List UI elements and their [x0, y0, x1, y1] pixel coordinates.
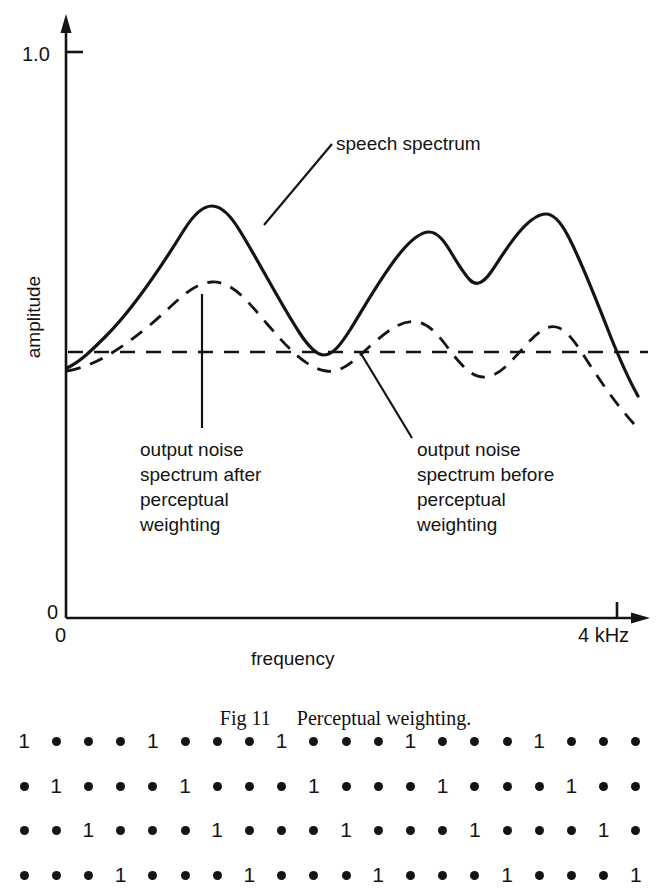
bit-grid-dot [588, 860, 620, 890]
bit-grid-one-glyph: 1 [340, 818, 352, 841]
bit-grid-one-glyph: 1 [372, 863, 384, 886]
bit-grid-dot [169, 815, 201, 845]
bit-grid-dot [40, 726, 72, 756]
y-axis-zero-tick-label: 0 [47, 600, 58, 625]
bit-grid-dot-glyph [245, 737, 254, 746]
bit-grid-dot [201, 771, 233, 801]
bit-grid-one: 1 [427, 771, 459, 801]
bit-grid-dot [394, 815, 426, 845]
bit-grid-dot [362, 726, 394, 756]
bit-grid-dot-glyph [52, 826, 61, 835]
bit-grid-dot-glyph [438, 737, 447, 746]
bit-grid-dot-glyph [342, 737, 351, 746]
bit-grid-dot [620, 815, 652, 845]
bit-grid-one-glyph: 1 [501, 863, 513, 886]
bit-grid-one: 1 [523, 726, 555, 756]
bit-grid: 11111111111111111111 [0, 722, 671, 894]
bit-grid-dot [620, 726, 652, 756]
bit-grid-dot [266, 860, 298, 890]
bit-grid-dot [169, 726, 201, 756]
bit-grid-dot-glyph [277, 782, 286, 791]
bit-grid-dot [523, 815, 555, 845]
bit-grid-dot-glyph [631, 782, 640, 791]
chart-plot [0, 0, 671, 660]
bit-grid-dot-glyph [631, 826, 640, 835]
bit-grid-one-glyph: 1 [598, 818, 610, 841]
bit-grid-one: 1 [394, 726, 426, 756]
bit-grid-dot [298, 726, 330, 756]
x-axis-max-tick-label: 4 kHz [578, 623, 629, 648]
bit-grid-one-glyph: 1 [566, 774, 578, 797]
bit-grid-dot [459, 771, 491, 801]
bit-grid-dot [40, 815, 72, 845]
bit-grid-dot [266, 771, 298, 801]
bit-grid-dot-glyph [84, 782, 93, 791]
bit-grid-dot-glyph [374, 826, 383, 835]
bit-grid-dot [330, 726, 362, 756]
bit-grid-dot-glyph [406, 826, 415, 835]
bit-grid-dot-glyph [567, 737, 576, 746]
bit-grid-dot [105, 815, 137, 845]
bit-grid-dot-glyph [277, 826, 286, 835]
bit-grid-dot [330, 771, 362, 801]
bit-grid-dot [330, 860, 362, 890]
bit-grid-one: 1 [201, 815, 233, 845]
bit-grid-dot-glyph [631, 737, 640, 746]
bit-grid-dot-glyph [213, 782, 222, 791]
bit-grid-dot [394, 860, 426, 890]
bit-grid-dot [137, 771, 169, 801]
bit-grid-dot-glyph [181, 826, 190, 835]
chart-area: 1.0 0 0 4 kHz amplitude frequency speech… [0, 0, 671, 660]
bit-grid-one-glyph: 1 [244, 863, 256, 886]
bit-grid-one: 1 [555, 771, 587, 801]
bit-grid-dot-glyph [406, 782, 415, 791]
bit-grid-dot [588, 771, 620, 801]
bit-grid-dot [233, 726, 265, 756]
bit-grid-dot-glyph [535, 782, 544, 791]
bit-grid-dot [362, 815, 394, 845]
bit-grid-dot-glyph [116, 826, 125, 835]
bit-grid-dot [459, 726, 491, 756]
bit-grid-dot [233, 815, 265, 845]
bit-grid-dot-glyph [245, 826, 254, 835]
annotation-noise-before-weighting: output noise spectrum before perceptual … [417, 437, 554, 537]
bit-grid-dot-glyph [84, 871, 93, 880]
bit-grid-one: 1 [8, 726, 40, 756]
bit-grid-dot [40, 860, 72, 890]
bit-grid-dot-glyph [20, 826, 29, 835]
bit-grid-one-glyph: 1 [83, 818, 95, 841]
bit-grid-one: 1 [330, 815, 362, 845]
annotation-noise-after-weighting: output noise spectrum after perceptual w… [140, 437, 261, 537]
bit-grid-dot [137, 815, 169, 845]
bit-grid-one-glyph: 1 [469, 818, 481, 841]
bit-grid-dot [523, 771, 555, 801]
bit-grid-dot-glyph [148, 782, 157, 791]
bit-grid-dot-glyph [213, 871, 222, 880]
bit-grid-dot-glyph [213, 737, 222, 746]
bit-grid-dot [459, 860, 491, 890]
bit-grid-one-glyph: 1 [18, 729, 30, 752]
y-axis [61, 14, 84, 618]
bit-grid-dot-glyph [84, 737, 93, 746]
bit-grid-dot [427, 860, 459, 890]
x-axis [66, 602, 650, 624]
speech-spectrum-curve [67, 206, 638, 396]
bit-grid-dot [298, 860, 330, 890]
bit-grid-dot [555, 815, 587, 845]
bit-grid-one: 1 [491, 860, 523, 890]
y-axis-title: amplitude [23, 269, 45, 365]
bit-grid-dot [8, 860, 40, 890]
bit-grid-dot [233, 771, 265, 801]
bit-grid-one: 1 [40, 771, 72, 801]
bit-grid-dot-glyph [52, 871, 61, 880]
bit-grid-dot-glyph [503, 826, 512, 835]
bit-grid-dot [523, 860, 555, 890]
bit-grid-one: 1 [298, 771, 330, 801]
bit-grid-dot-glyph [20, 871, 29, 880]
x-axis-zero-tick-label: 0 [55, 623, 66, 648]
bit-grid-dot-glyph [342, 782, 351, 791]
bit-grid-one: 1 [169, 771, 201, 801]
bit-grid-one: 1 [588, 815, 620, 845]
bit-grid-one: 1 [233, 860, 265, 890]
bit-grid-one: 1 [266, 726, 298, 756]
